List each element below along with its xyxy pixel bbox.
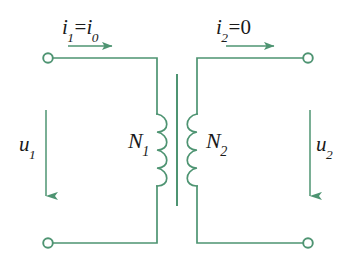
- secondary-current-operator: =: [229, 15, 241, 39]
- primary-current-value-subscript: 0: [92, 30, 99, 45]
- primary-current-label: i1=i0: [62, 17, 99, 42]
- wire-secondary-bottom: [197, 186, 303, 243]
- secondary-current-label: i2=0: [216, 17, 251, 42]
- transformer-circuit-figure: i1=i0 i2=0 u1 u2 N1 N2: [0, 0, 357, 272]
- secondary-turns-label: N2: [206, 130, 228, 155]
- terminal-bottom-right: [303, 238, 313, 248]
- terminal-top-right: [303, 53, 313, 63]
- secondary-winding: [187, 114, 197, 186]
- terminal-bottom-left: [43, 238, 53, 248]
- secondary-voltage-label: u2: [316, 134, 333, 159]
- terminal-top-left: [43, 53, 53, 63]
- secondary-turns-symbol: N: [206, 128, 221, 153]
- secondary-voltage-symbol: u: [316, 132, 327, 156]
- primary-turns-label: N1: [128, 130, 150, 155]
- wire-secondary-top: [197, 58, 303, 114]
- primary-voltage-subscript: 1: [29, 147, 36, 162]
- primary-winding: [157, 114, 167, 186]
- secondary-voltage-subscript: 2: [326, 147, 333, 162]
- secondary-current-value-symbol: 0: [240, 15, 251, 39]
- primary-current-operator: =: [75, 15, 87, 39]
- wire-primary-top: [53, 58, 157, 114]
- circuit-schematic: [0, 0, 357, 272]
- primary-current-subscript: 1: [67, 30, 74, 45]
- primary-turns-subscript: 1: [142, 143, 149, 159]
- wire-primary-bottom: [53, 186, 157, 243]
- primary-turns-symbol: N: [128, 128, 143, 153]
- secondary-current-subscript: 2: [221, 30, 228, 45]
- primary-voltage-symbol: u: [19, 132, 30, 156]
- secondary-turns-subscript: 2: [220, 143, 227, 159]
- primary-voltage-label: u1: [19, 134, 36, 159]
